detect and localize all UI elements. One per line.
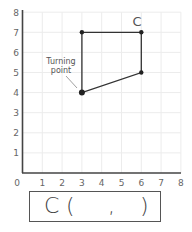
x-tick-label: 0	[14, 178, 20, 188]
y-tick-label: 5	[13, 68, 19, 78]
vertex-dot	[139, 70, 143, 74]
y-tick-label: 6	[13, 48, 19, 58]
turning-point-label-line2: point	[51, 66, 71, 75]
answer-comma: ,	[108, 193, 115, 218]
y-tick-label: 2	[13, 128, 19, 138]
x-tick-label: 1	[39, 178, 45, 188]
x-tick-label: 6	[138, 178, 144, 188]
x-tick-label: 7	[158, 178, 164, 188]
x-tick-label: 5	[119, 178, 125, 188]
turning-point-label-line1: Turning	[45, 57, 75, 66]
vertex-dot	[139, 30, 143, 34]
answer-prefix: C	[44, 193, 59, 218]
x-tick-labels: 012345678	[14, 178, 184, 188]
y-tick-label: 8	[13, 8, 19, 18]
answer-open-paren: (	[66, 193, 75, 218]
y-tick-label: 1	[13, 148, 19, 158]
y-tick-label: 7	[13, 28, 19, 38]
gridlines	[23, 12, 181, 173]
answer-close-paren: )	[140, 193, 149, 218]
turning-point-dot	[79, 90, 85, 96]
turning-point-pointer	[66, 76, 77, 88]
y-tick-labels: 12345678	[13, 8, 19, 159]
x-tick-label: 3	[79, 178, 85, 188]
vertex-dot	[80, 30, 84, 34]
vertex-label-c: C	[132, 14, 141, 29]
x-tick-label: 4	[99, 178, 105, 188]
answer-box[interactable]: C ( , )	[29, 191, 161, 222]
x-tick-label: 2	[59, 178, 65, 188]
y-tick-label: 4	[13, 88, 19, 98]
y-tick-label: 3	[13, 108, 19, 118]
quadrilateral-shape	[82, 32, 141, 92]
x-tick-label: 8	[178, 178, 184, 188]
vertex-points	[79, 30, 144, 96]
coordinate-grid: 012345678 12345678 C Turning point	[0, 0, 192, 190]
